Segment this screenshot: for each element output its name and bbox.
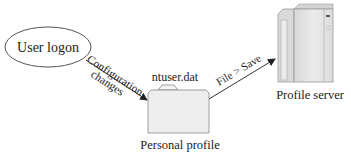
personal-profile-node: ntuser.dat Personal profile [140,70,220,152]
user-logon-node: User logon [5,27,91,67]
config-changes-edge: Configuration changes [84,53,147,100]
profile-server-label: Profile server [276,88,345,102]
save-label: File > Save [214,52,263,88]
ntuser-dat-label: ntuser.dat [152,70,199,84]
personal-profile-label: Personal profile [140,138,220,152]
server-icon [278,4,333,82]
user-logon-label: User logon [17,40,79,55]
diagram-canvas: User logon Configuration changes ntuser.… [0,0,351,156]
folder-icon [148,85,209,133]
file-save-edge: File > Save [209,52,275,99]
profile-server-node: Profile server [276,4,345,102]
